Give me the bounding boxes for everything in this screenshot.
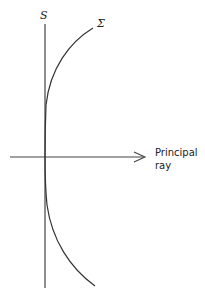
label-ray: ray xyxy=(155,160,171,171)
label-sigma: Σ xyxy=(97,18,105,29)
label-principal: Principal xyxy=(155,147,198,158)
label-s: S xyxy=(40,10,48,21)
